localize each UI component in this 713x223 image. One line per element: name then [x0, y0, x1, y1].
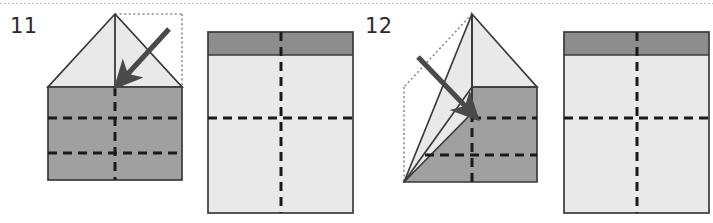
figure-step-11-before — [48, 14, 182, 180]
paper-body-rect — [472, 87, 537, 182]
figure-step-11-after — [208, 32, 353, 213]
paper-triangle-right — [472, 14, 537, 87]
diagram-sheet: 11 12 — [0, 0, 713, 223]
figure-step-12-before — [404, 14, 537, 182]
origami-figures — [0, 0, 713, 223]
figure-step-12-after — [564, 32, 709, 213]
